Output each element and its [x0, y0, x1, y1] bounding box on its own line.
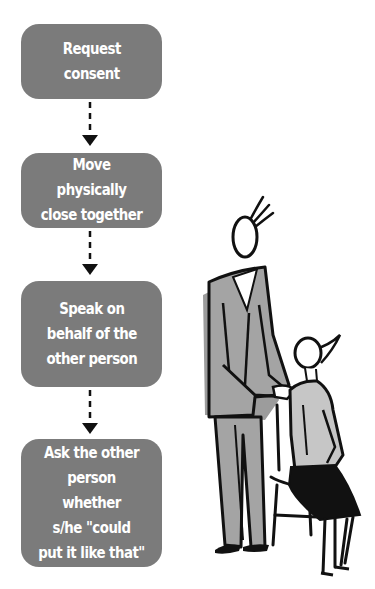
step-box-move-close: Move physically close together [21, 153, 162, 228]
man-shoes-icon [215, 545, 241, 554]
woman-head-icon [295, 338, 321, 368]
step-label: Ask the other person whether s/he "could… [36, 441, 147, 566]
dashed-arrow-connector [82, 102, 98, 148]
man-head-icon [233, 217, 257, 257]
step-label: Request consent [62, 37, 120, 87]
step-box-speak-on-behalf: Speak on behalf of the other person [21, 281, 162, 387]
step-box-ask-confirmation: Ask the other person whether s/he "could… [21, 439, 162, 567]
step-box-request-consent: Request consent [21, 24, 162, 99]
arrow-down-icon [82, 231, 98, 277]
step-label: Speak on behalf of the other person [46, 297, 137, 372]
arrow-down-icon [82, 390, 98, 436]
man-trousers-icon [215, 417, 265, 547]
arrow-down-icon [82, 102, 98, 148]
illustration-man-and-seated-woman [195, 185, 375, 585]
dashed-arrow-connector [82, 231, 98, 277]
dashed-arrow-connector [82, 390, 98, 436]
woman-legs-icon [323, 517, 353, 573]
woman-skirt-icon [289, 465, 360, 520]
woman-blouse-icon [290, 381, 343, 470]
step-label: Move physically close together [36, 153, 147, 228]
